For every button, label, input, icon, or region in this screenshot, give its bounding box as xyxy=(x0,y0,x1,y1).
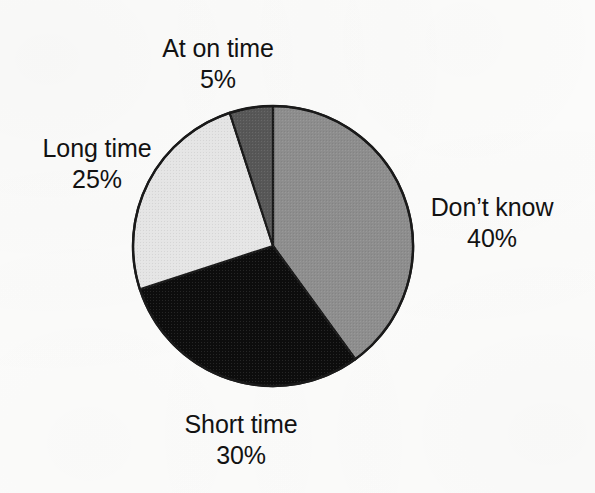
pie-label-dont-know: Don’t know 40% xyxy=(431,192,554,254)
pie-label-at-on-time-value: 5% xyxy=(162,64,274,95)
pie-label-long-time-name: Long time xyxy=(43,133,152,164)
pie-label-dont-know-name: Don’t know xyxy=(431,192,554,223)
pie-label-long-time-value: 25% xyxy=(43,164,152,195)
pie-label-short-time: Short time 30% xyxy=(185,409,298,471)
pie-texture-overlay xyxy=(133,106,413,386)
pie-label-at-on-time: At on time 5% xyxy=(162,33,274,95)
pie-label-short-time-name: Short time xyxy=(185,409,298,440)
pie-chart-figure: At on time 5% Long time 25% Don’t know 4… xyxy=(0,0,595,493)
pie-label-long-time: Long time 25% xyxy=(43,133,152,195)
pie-label-dont-know-value: 40% xyxy=(431,223,554,254)
pie-label-at-on-time-name: At on time xyxy=(162,33,274,64)
pie-label-short-time-value: 30% xyxy=(185,440,298,471)
